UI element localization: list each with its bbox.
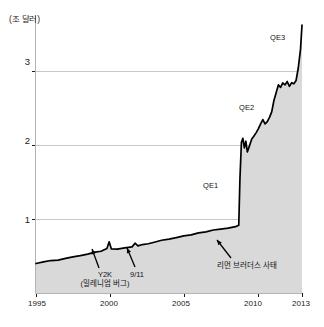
annotation-sept11: 9/11 — [117, 270, 157, 279]
x-axis-tick-label-2005: 2005 — [161, 300, 201, 308]
annotation-lehman-label: 리먼 브러더스 사태 — [217, 261, 277, 270]
x-axis-tick-label-2000: 2000 — [89, 300, 129, 308]
y-axis-tick-label-3: 3 — [8, 57, 30, 67]
annotation-qe2-label: QE2 — [239, 103, 254, 112]
area-fill — [36, 25, 302, 293]
annotation-qe2: QE2 — [239, 103, 254, 112]
annotation-qe3-label: QE3 — [270, 33, 285, 42]
plot-area — [0, 0, 324, 327]
annotation-sept11-label: 9/11 — [117, 270, 157, 279]
annotation-lehman: 리먼 브러더스 사태 — [217, 261, 277, 270]
annotation-qe1-label: QE1 — [203, 181, 218, 190]
annotation-qe3: QE3 — [270, 33, 285, 42]
x-axis-tick-label-2010: 2010 — [233, 300, 273, 308]
chart-container: (조 달러) 3 2 1 1995 2000 2005 2010 2013 Y2… — [0, 0, 324, 327]
annotation-y2k-sublabel: (밀레니엄 버그) — [70, 279, 140, 288]
x-axis-tick-label-2013: 2013 — [281, 300, 321, 308]
y-axis-tick-label-1: 1 — [8, 215, 30, 225]
x-axis-tick-label-1995: 1995 — [17, 300, 57, 308]
annotation-qe1: QE1 — [203, 181, 218, 190]
y-axis-unit-label: (조 달러) — [9, 12, 40, 24]
y-axis-tick-label-2: 2 — [8, 136, 30, 146]
